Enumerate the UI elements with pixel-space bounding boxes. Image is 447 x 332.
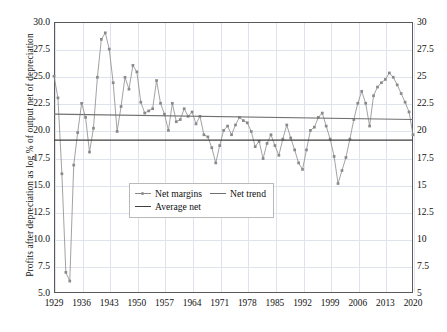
data-point-marker xyxy=(72,164,75,167)
y-tick-label-right: 25 xyxy=(417,70,427,81)
y-tick-label-right: 15 xyxy=(417,179,427,190)
data-point-marker xyxy=(305,149,308,152)
data-point-marker xyxy=(143,112,146,115)
data-point-marker xyxy=(139,101,142,104)
data-point-marker xyxy=(84,116,87,119)
data-point-marker xyxy=(262,157,265,160)
data-point-marker xyxy=(321,112,324,115)
average-net-swatch-icon xyxy=(135,202,151,211)
y-tick-label-left: 30.0 xyxy=(33,16,50,27)
x-tick-label: 2006 xyxy=(348,298,367,308)
series-line-net-trend xyxy=(54,114,413,119)
legend-label-net-margins: Net margins xyxy=(155,187,202,200)
y-tick-label-left: 10.0 xyxy=(33,233,50,244)
data-point-marker xyxy=(250,130,253,133)
legend-label-net-trend: Net trend xyxy=(230,187,266,200)
y-tick-label-left: 5.0 xyxy=(38,287,50,298)
data-point-marker xyxy=(270,133,273,136)
x-tick-label: 1985 xyxy=(266,298,285,308)
data-point-marker xyxy=(400,92,403,95)
data-point-marker xyxy=(214,162,217,165)
data-point-marker xyxy=(293,149,296,152)
data-point-marker xyxy=(61,172,64,175)
legend-row-2: Average net xyxy=(135,200,266,213)
data-point-marker xyxy=(155,79,158,82)
data-point-marker xyxy=(333,155,336,158)
data-point-marker xyxy=(388,72,391,75)
x-tick-label: 1978 xyxy=(238,298,257,308)
data-point-marker xyxy=(309,129,312,132)
data-point-marker xyxy=(242,119,245,122)
data-point-marker xyxy=(68,280,71,283)
data-point-marker xyxy=(218,144,221,147)
data-point-marker xyxy=(207,136,210,139)
chart-legend: Net margins Net trend Average net xyxy=(129,183,274,218)
data-point-marker xyxy=(136,71,139,74)
legend-row-1: Net margins Net trend xyxy=(135,187,266,200)
data-point-marker xyxy=(210,146,213,149)
data-point-marker xyxy=(274,144,277,147)
data-point-marker xyxy=(76,131,79,134)
x-tick-label: 1957 xyxy=(155,298,174,308)
data-point-marker xyxy=(128,88,131,91)
data-point-marker xyxy=(364,102,367,105)
data-point-marker xyxy=(372,94,375,97)
data-point-marker xyxy=(396,84,399,87)
data-point-marker xyxy=(179,118,182,121)
data-point-marker xyxy=(337,182,340,185)
data-point-marker xyxy=(345,156,348,159)
data-point-marker xyxy=(167,129,170,132)
data-point-marker xyxy=(163,113,166,116)
series-line-net-margins xyxy=(54,33,413,281)
y-tick-label-left: 7.5 xyxy=(38,260,50,271)
data-point-marker xyxy=(266,142,269,145)
data-point-marker xyxy=(226,125,229,128)
y-tick-label-right: 12.5 xyxy=(417,206,434,217)
y-tick-label-right: 17.5 xyxy=(417,152,434,163)
legend-label-average-net: Average net xyxy=(155,200,201,213)
data-point-marker xyxy=(171,102,174,105)
data-point-marker xyxy=(104,31,107,34)
series-layer xyxy=(0,0,447,332)
data-point-marker xyxy=(151,107,154,110)
data-point-marker xyxy=(285,124,288,127)
y-tick-label-left: 15.0 xyxy=(33,179,50,190)
y-tick-label-left: 27.5 xyxy=(33,43,50,54)
y-tick-label-right: 7.5 xyxy=(417,260,429,271)
data-point-marker xyxy=(384,78,387,81)
y-tick-label-left: 12.5 xyxy=(33,206,50,217)
data-point-marker xyxy=(53,75,56,78)
y-tick-label-right: 10 xyxy=(417,233,427,244)
data-point-marker xyxy=(408,111,411,114)
data-point-marker xyxy=(254,145,257,148)
x-tick-label: 2020 xyxy=(404,298,423,308)
data-point-marker xyxy=(356,102,359,105)
data-point-marker xyxy=(57,97,60,100)
data-point-marker xyxy=(132,64,135,67)
x-tick-label: 1999 xyxy=(321,298,340,308)
data-point-marker xyxy=(175,120,178,123)
data-point-marker xyxy=(159,102,162,105)
y-tick-label-left: 17.5 xyxy=(33,152,50,163)
x-tick-label: 1936 xyxy=(72,298,91,308)
data-point-marker xyxy=(64,271,67,274)
data-point-marker xyxy=(116,130,119,133)
net-trend-swatch-icon xyxy=(210,189,226,198)
data-point-marker xyxy=(96,76,99,79)
data-point-marker xyxy=(92,127,95,130)
x-tick-label: 1943 xyxy=(100,298,119,308)
data-point-marker xyxy=(88,151,91,154)
data-point-marker xyxy=(195,123,198,126)
data-point-marker xyxy=(289,137,292,140)
x-tick-label: 1929 xyxy=(45,298,64,308)
x-tick-label: 1971 xyxy=(210,298,229,308)
data-point-marker xyxy=(222,129,225,132)
chart-container: Profits after depreciation as log % of o… xyxy=(0,0,447,332)
y-tick-label-right: 22.5 xyxy=(417,97,434,108)
y-tick-label-right: 5 xyxy=(417,287,422,298)
data-point-marker xyxy=(368,125,371,128)
data-point-marker xyxy=(120,105,123,108)
data-point-marker xyxy=(124,76,127,79)
y-tick-label-right: 30 xyxy=(417,16,427,27)
x-tick-label: 1992 xyxy=(293,298,312,308)
